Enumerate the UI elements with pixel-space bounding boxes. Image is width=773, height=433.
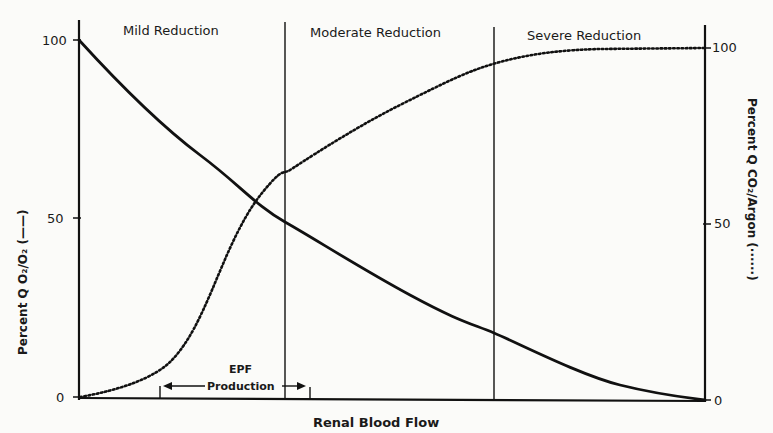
epf-label-line1: EPF bbox=[229, 363, 252, 376]
right-tick-label-50: 50 bbox=[714, 216, 731, 231]
x-axis bbox=[79, 398, 705, 401]
epf-left-arrowhead-icon bbox=[163, 382, 172, 390]
epf-right-arrowhead-icon bbox=[297, 382, 306, 390]
chart-figure: Mild Reduction Moderate Reduction Severe… bbox=[0, 0, 773, 433]
right-tick-label-100: 100 bbox=[712, 40, 737, 55]
series-co2-argon-dotted-curve bbox=[80, 48, 705, 397]
epf-label-line2: Production bbox=[207, 380, 275, 393]
left-tick-label-50: 50 bbox=[47, 211, 64, 226]
right-axis-title: Percent Q CO₂/Argon (······) bbox=[745, 98, 759, 281]
right-tick-label-0: 0 bbox=[714, 393, 722, 408]
series-o2-solid-curve bbox=[79, 40, 705, 400]
x-axis-title: Renal Blood Flow bbox=[313, 415, 439, 430]
region-label-moderate: Moderate Reduction bbox=[310, 25, 441, 40]
region-label-severe: Severe Reduction bbox=[527, 28, 641, 43]
region-label-mild: Mild Reduction bbox=[123, 23, 219, 38]
left-axis-title: Percent Q O₂/O₂ (——) bbox=[16, 210, 30, 355]
left-tick-label-0: 0 bbox=[56, 390, 64, 405]
left-tick-label-100: 100 bbox=[42, 33, 67, 48]
